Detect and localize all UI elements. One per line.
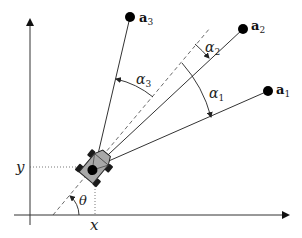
theta-arc: [70, 196, 79, 215]
robot-bearing-diagram: a3 a2 a1 α3 α2 α1 θ y x: [0, 0, 302, 238]
bearing-lines: [95, 17, 268, 167]
bearing-line-a1: [95, 91, 268, 167]
y-label: y: [15, 158, 25, 176]
x-label: x: [90, 216, 99, 234]
landmark-a1-icon: [263, 86, 273, 96]
coordinate-axes: [14, 20, 288, 225]
heading-line: [53, 28, 210, 215]
label-a2: a2: [251, 18, 265, 35]
angle-arcs: [70, 44, 211, 215]
label-alpha2: α2: [205, 39, 220, 57]
label-alpha3: α3: [136, 71, 151, 89]
robot-body: [79, 147, 113, 183]
label-alpha1: α1: [209, 85, 224, 103]
alpha1-arc: [182, 63, 211, 117]
label-a3: a3: [139, 10, 153, 27]
label-a1: a1: [276, 82, 290, 99]
landmark-a2-icon: [238, 24, 248, 34]
landmark-a3-icon: [125, 12, 135, 22]
theta-label: θ: [79, 193, 87, 208]
